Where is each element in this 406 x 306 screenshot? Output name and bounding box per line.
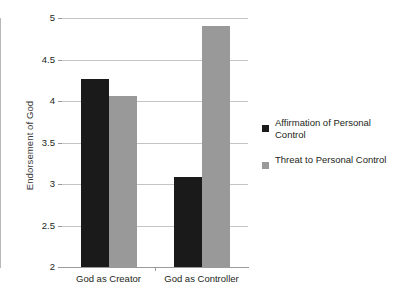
x-axis-tick-label: God as Controller — [155, 273, 248, 284]
plot-area — [62, 18, 248, 267]
legend-item: Threat to Personal Control — [262, 154, 404, 169]
gridline — [62, 18, 248, 19]
y-axis-tick-label: 4 — [15, 95, 55, 106]
legend-item: Affirmation of Personal Control — [262, 117, 404, 141]
y-axis-tick — [58, 18, 62, 19]
y-axis-tick — [58, 226, 62, 227]
x-axis-tick — [155, 267, 156, 271]
bar — [202, 26, 230, 267]
legend-swatch-icon — [262, 125, 269, 132]
y-axis-tick-label: 2 — [15, 261, 55, 272]
legend-label: Affirmation of Personal Control — [275, 117, 404, 141]
y-axis-tick-label: 4.5 — [15, 54, 55, 65]
y-axis-tick — [58, 184, 62, 185]
y-axis-line — [0, 18, 1, 268]
y-axis-tick — [58, 101, 62, 102]
y-axis-tick-label: 5 — [15, 12, 55, 23]
y-axis-tick — [58, 60, 62, 61]
legend-label: Threat to Personal Control — [275, 154, 386, 166]
bar-chart-figure: Endorsement of God 54.543.532.52 God as … — [0, 0, 406, 306]
y-axis-tick — [58, 267, 62, 268]
y-axis-tick-label: 2.5 — [15, 220, 55, 231]
y-axis-tick-label: 3.5 — [15, 137, 55, 148]
legend-swatch-icon — [262, 162, 269, 169]
x-axis-tick-label: God as Creator — [62, 273, 155, 284]
y-axis-tick — [58, 143, 62, 144]
chart-legend: Affirmation of Personal ControlThreat to… — [262, 117, 404, 182]
bar — [109, 96, 137, 267]
bar — [174, 177, 202, 267]
bar — [81, 79, 109, 267]
y-axis-tick-label: 3 — [15, 178, 55, 189]
